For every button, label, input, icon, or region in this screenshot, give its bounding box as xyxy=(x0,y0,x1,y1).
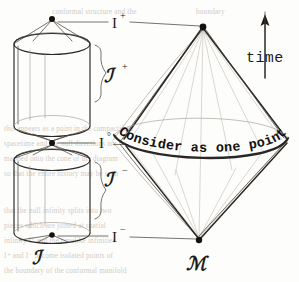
i-zero-vertex-dot xyxy=(49,140,55,146)
scri-plus-superscript: + xyxy=(122,61,128,72)
diamond-upper-right-edge-inner xyxy=(206,30,284,138)
i-minus-base: I xyxy=(112,229,117,245)
time-axis-label: time xyxy=(246,50,284,67)
showthrough-line: the boundary of the conformal manifold xyxy=(4,267,127,275)
showthrough-line: I⁺ and I⁻ become isolated points of xyxy=(4,252,114,260)
showthrough-line: boundary xyxy=(196,8,225,16)
i-zero-base: I xyxy=(99,135,104,151)
diamond-apex-dot xyxy=(200,24,207,31)
figure-canvas: conformal structure and the boundary thi… xyxy=(0,0,299,282)
showthrough-line: pieces which are joined at spatial xyxy=(4,222,106,230)
diamond-bottom-dot xyxy=(196,237,202,243)
conformal-diagram-figure: conformal structure and the boundary thi… xyxy=(0,0,299,282)
i-zero-superscript: ° xyxy=(107,131,111,142)
upper-cylinder-convergence-rays xyxy=(15,20,90,43)
diamond-left-upper-strong xyxy=(124,28,202,139)
i-plus-superscript: + xyxy=(120,10,126,21)
showthrough-line: that the null infinity splits into two xyxy=(4,207,112,215)
i-plus-leader-right xyxy=(130,22,200,26)
label-scri-plus: ℐ + xyxy=(104,61,128,86)
label-manifold-m: ℳ xyxy=(186,253,210,274)
upper-cylinder-top-rim xyxy=(14,34,90,55)
i-minus-vertex-dot xyxy=(49,232,55,238)
i-minus-superscript: − xyxy=(120,224,126,235)
i-plus-vertex-dot xyxy=(49,16,55,22)
i-minus-leader-right xyxy=(130,237,196,239)
i-zero-dash: — xyxy=(112,135,129,151)
upper-cylinder xyxy=(14,20,90,141)
i-plus-base: I xyxy=(112,15,117,31)
diamond-left-lower-strong xyxy=(126,146,199,239)
scri-minus-superscript: − xyxy=(122,165,128,176)
time-axis xyxy=(261,12,270,78)
label-i-minus: I − xyxy=(112,224,126,245)
scri-plus-base: ℐ xyxy=(104,65,117,86)
